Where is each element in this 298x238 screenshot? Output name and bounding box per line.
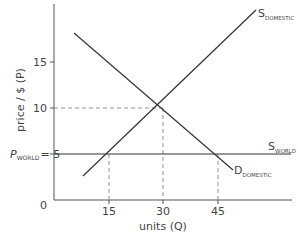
s-domestic-line xyxy=(83,10,256,176)
x-axis-label: units (Q) xyxy=(139,220,187,233)
s-domestic-label: SDOMESTIC xyxy=(258,7,294,21)
d-domestic-label: DDOMESTIC xyxy=(234,164,272,178)
x-tick-15: 15 xyxy=(102,205,116,218)
x-tick-45: 45 xyxy=(211,205,225,218)
supply-demand-chart: 15 10 0 PWORLD= 5 15 30 45 units (Q) pri… xyxy=(0,0,298,238)
s-world-label: SWORLD xyxy=(268,140,296,154)
d-domestic-line xyxy=(74,33,233,170)
y-tick-15: 15 xyxy=(33,56,47,69)
y-axis-label: price / $ (P) xyxy=(14,68,27,132)
origin-label: 0 xyxy=(40,199,47,212)
p-world-label: PWORLD= 5 xyxy=(10,148,60,161)
x-tick-30: 30 xyxy=(156,205,170,218)
y-tick-10: 10 xyxy=(33,102,47,115)
